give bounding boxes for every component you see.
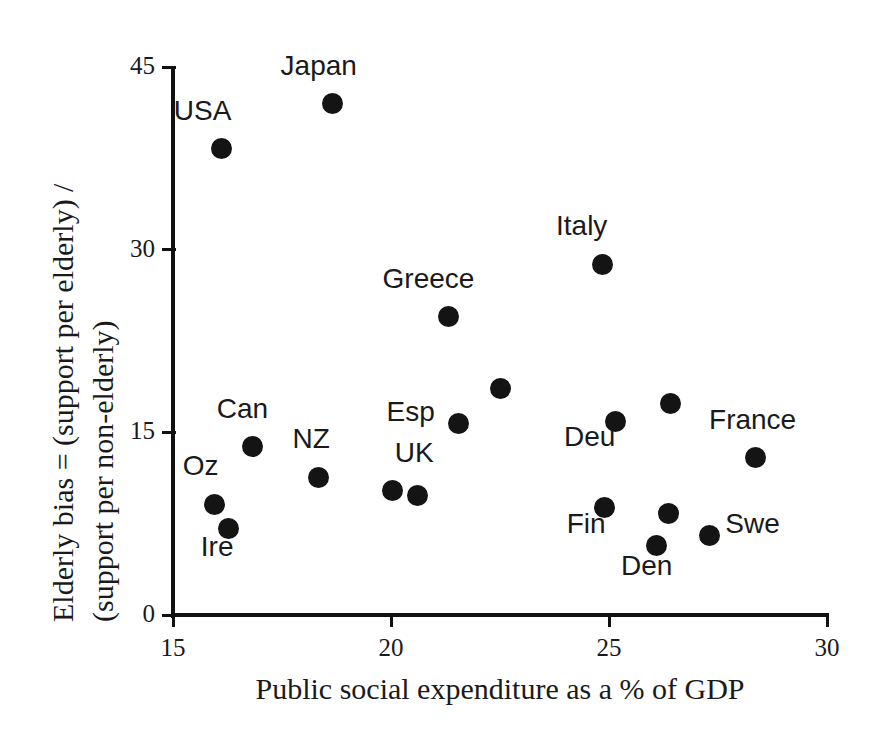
data-point-can[interactable] xyxy=(242,436,263,457)
data-point-4[interactable] xyxy=(490,378,511,399)
point-label-esp: Esp xyxy=(387,396,435,428)
point-label-oz: Oz xyxy=(183,450,219,482)
y-tick-label-45: 45 xyxy=(105,52,155,80)
y-axis-line xyxy=(171,66,175,618)
y-tick-30 xyxy=(162,248,176,251)
point-label-uk: UK xyxy=(395,437,434,469)
point-label-nz: NZ xyxy=(293,423,330,455)
point-label-france: France xyxy=(709,404,796,436)
data-point-swe[interactable] xyxy=(699,525,720,546)
point-label-fin: Fin xyxy=(567,508,606,540)
data-point-greece[interactable] xyxy=(438,306,459,327)
x-tick-label-15: 15 xyxy=(143,634,203,662)
data-point-italy[interactable] xyxy=(592,254,613,275)
x-tick-20 xyxy=(390,613,393,627)
point-label-greece: Greece xyxy=(383,263,475,295)
x-tick-25 xyxy=(608,613,611,627)
x-tick-30 xyxy=(826,613,829,627)
data-point-usa[interactable] xyxy=(211,138,232,159)
data-point-japan[interactable] xyxy=(322,93,343,114)
data-point-france[interactable] xyxy=(745,447,766,468)
x-tick-15 xyxy=(172,613,175,627)
data-point-oz[interactable] xyxy=(204,494,225,515)
x-tick-label-30: 30 xyxy=(797,634,857,662)
chart-page: Elderly bias = (support per elderly) / (… xyxy=(0,0,879,740)
point-label-usa: USA xyxy=(174,95,232,127)
point-label-ire: Ire xyxy=(201,531,234,563)
data-point-12[interactable] xyxy=(407,485,428,506)
y-tick-label-0: 0 xyxy=(105,600,155,628)
data-point-esp[interactable] xyxy=(448,413,469,434)
x-tick-label-25: 25 xyxy=(579,634,639,662)
point-label-swe: Swe xyxy=(725,508,779,540)
data-point-nz[interactable] xyxy=(308,467,329,488)
point-label-deu: Deu xyxy=(564,421,615,453)
data-point-uk[interactable] xyxy=(382,480,403,501)
y-tick-45 xyxy=(162,66,176,69)
x-tick-label-20: 20 xyxy=(361,634,421,662)
point-label-den: Den xyxy=(621,550,672,582)
data-point-5[interactable] xyxy=(660,393,681,414)
data-point-15[interactable] xyxy=(658,503,679,524)
caption-remnant xyxy=(235,716,855,734)
point-label-japan: Japan xyxy=(281,50,357,82)
y-tick-label-15: 15 xyxy=(105,417,155,445)
x-axis-line xyxy=(171,613,828,617)
plot-area: 0153045 15202530 USAJapanItalyGreeceDeuE… xyxy=(0,0,879,740)
point-label-italy: Italy xyxy=(556,210,607,242)
y-tick-15 xyxy=(162,431,176,434)
y-tick-label-30: 30 xyxy=(105,235,155,263)
point-label-can: Can xyxy=(217,393,268,425)
